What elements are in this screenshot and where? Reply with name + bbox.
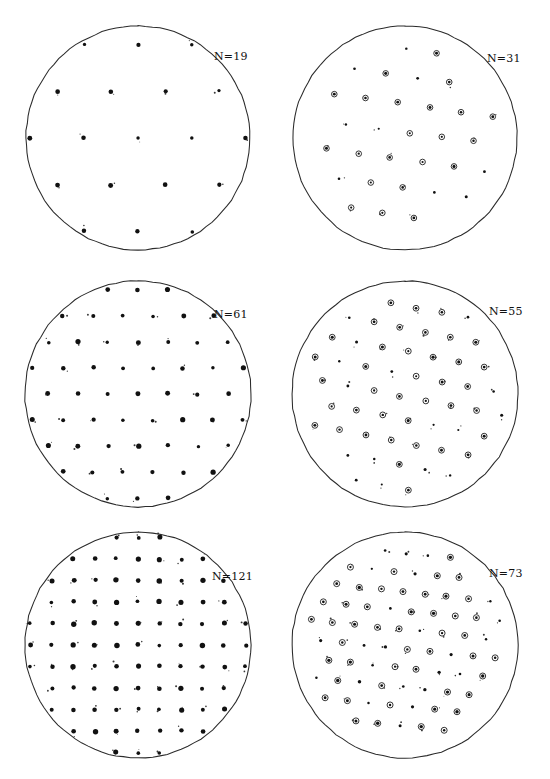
pole-point-speckle — [476, 612, 478, 614]
pole-point — [420, 725, 423, 728]
pole-point — [338, 428, 340, 430]
pole-point — [243, 664, 247, 668]
pole-point-speckle — [165, 93, 167, 95]
pole-point-speckle — [120, 468, 122, 470]
pole-point-speckle — [473, 138, 475, 140]
pole-point — [457, 429, 459, 431]
pole-point — [241, 418, 245, 422]
pole-point — [157, 557, 162, 562]
pole-point — [367, 702, 369, 704]
pole-point — [390, 370, 393, 373]
pole-point-speckle — [75, 620, 77, 622]
pole-point-speckle — [344, 177, 345, 178]
pole-point-speckle — [157, 751, 159, 753]
pole-point-speckle — [95, 705, 97, 707]
pole-point-speckle — [392, 376, 393, 377]
pole-point — [150, 470, 154, 474]
pole-point-speckle — [347, 664, 348, 665]
pole-point — [406, 648, 408, 650]
pole-point — [401, 186, 404, 189]
pole-point-speckle — [403, 350, 404, 351]
pole-point-speckle — [103, 341, 104, 342]
pole-point — [407, 489, 410, 492]
pole-point — [157, 663, 162, 668]
pole-point-speckle — [161, 582, 162, 583]
pole-point — [449, 336, 452, 339]
pole-point — [350, 207, 352, 209]
pole-point — [113, 686, 118, 691]
pole-point — [211, 366, 214, 369]
pole-point-speckle — [66, 315, 68, 317]
pole-point — [109, 89, 114, 94]
pole-point-speckle — [177, 563, 179, 565]
pole-point — [325, 147, 328, 150]
pole-point-speckle — [373, 318, 375, 320]
pole-point — [315, 677, 318, 680]
pole-point-speckle — [83, 225, 85, 227]
pole-point-speckle — [373, 723, 375, 725]
pole-point-speckle — [405, 653, 406, 654]
pole-point-speckle — [213, 422, 214, 423]
pole-point — [190, 136, 193, 139]
pole-point-speckle — [389, 436, 390, 437]
pole-point — [415, 375, 417, 377]
pole-point-speckle — [430, 428, 431, 429]
pole-point — [366, 605, 369, 608]
pole-point — [393, 570, 395, 572]
pole-point — [415, 307, 418, 310]
pole-point-speckle — [139, 142, 140, 143]
pole-point — [136, 136, 139, 139]
pole-point — [217, 183, 221, 187]
pole-point-speckle — [114, 183, 115, 184]
pole-point-speckle — [381, 646, 383, 648]
pole-point — [179, 643, 183, 647]
pole-point-speckle — [214, 92, 216, 94]
pole-point — [135, 642, 140, 647]
pole-point-speckle — [391, 153, 392, 154]
pole-point — [137, 751, 141, 755]
pole-point — [165, 287, 170, 292]
pole-point — [136, 444, 141, 449]
pole-point — [382, 414, 384, 416]
pole-point-speckle — [441, 598, 442, 599]
pole-point — [106, 444, 110, 448]
pole-point-speckle — [26, 623, 27, 624]
pole-point-speckle — [96, 605, 98, 607]
pole-point — [191, 230, 195, 234]
pole-point — [121, 419, 125, 423]
pole-point — [466, 385, 469, 388]
pole-point-speckle — [341, 602, 343, 604]
pole-figure-5 — [17, 524, 259, 766]
pole-point — [327, 659, 330, 662]
pole-point — [180, 417, 185, 422]
pole-point — [151, 367, 155, 371]
pole-point-group — [26, 533, 249, 755]
pole-point — [410, 610, 413, 613]
pole-point-speckle — [314, 359, 316, 361]
pole-point-speckle — [184, 364, 185, 365]
pole-point-speckle — [141, 641, 143, 643]
pole-point — [114, 729, 119, 734]
pole-point — [70, 556, 75, 561]
pole-point — [389, 607, 392, 610]
pole-point — [108, 183, 113, 188]
pole-point — [136, 664, 141, 669]
pole-point-speckle — [419, 687, 421, 689]
pole-point-speckle — [313, 429, 314, 430]
pole-point — [226, 391, 231, 396]
pole-point — [399, 724, 402, 727]
pole-point — [180, 558, 184, 562]
pole-point — [313, 424, 316, 427]
pole-point — [217, 89, 220, 92]
pole-point — [201, 708, 205, 712]
pole-point — [483, 366, 486, 369]
pole-point-speckle — [443, 696, 444, 697]
pole-point-speckle — [459, 573, 461, 575]
pole-point — [355, 409, 358, 412]
pole-point — [197, 445, 200, 448]
pole-point — [450, 653, 453, 656]
pole-point — [90, 470, 94, 474]
pole-point-speckle — [428, 594, 429, 595]
pole-point — [353, 67, 356, 70]
pole-point-speckle — [78, 344, 80, 346]
